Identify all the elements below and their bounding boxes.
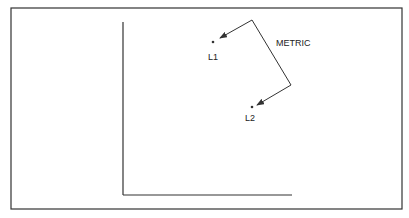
- arrow-to-l2: [257, 85, 291, 105]
- outer-frame: [11, 8, 402, 209]
- label-l2: L2: [245, 113, 255, 123]
- point-l1: [212, 41, 215, 44]
- diagram-canvas: L1 L2 METRIC: [0, 0, 409, 218]
- metric-path-segment: [252, 20, 291, 85]
- point-l2: [251, 106, 254, 109]
- arrow-to-l1: [220, 20, 252, 38]
- label-l1: L1: [208, 52, 218, 62]
- label-metric: METRIC: [276, 38, 311, 48]
